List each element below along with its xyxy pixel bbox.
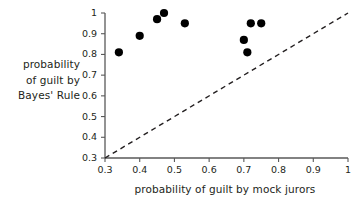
y-tick-label: 0.8: [75, 48, 97, 59]
plot-area: [0, 0, 360, 209]
x-tick-label: 0.9: [301, 164, 325, 175]
x-tick-label: 0.4: [128, 164, 152, 175]
x-tick-label: 0.7: [232, 164, 256, 175]
y-tick-label: 0.5: [75, 111, 97, 122]
data-point: [115, 48, 123, 56]
y-tick-label: 1: [75, 7, 97, 18]
data-point: [136, 32, 144, 40]
scatter-plot-figure: probability of guilt by Bayes' Rule prob…: [0, 0, 360, 209]
data-point: [257, 19, 265, 27]
x-tick-label: 0.3: [93, 164, 117, 175]
x-tick-label: 0.5: [162, 164, 186, 175]
x-tick-label: 1: [336, 164, 360, 175]
y-tick-label: 0.7: [75, 69, 97, 80]
y-tick-label: 0.6: [75, 90, 97, 101]
data-point: [247, 19, 255, 27]
data-point: [153, 15, 161, 23]
y-tick-label: 0.3: [75, 152, 97, 163]
y-tick-label: 0.4: [75, 131, 97, 142]
data-points: [115, 9, 266, 57]
data-point: [243, 48, 251, 56]
data-point: [160, 9, 168, 17]
x-tick-label: 0.8: [267, 164, 291, 175]
data-point: [181, 19, 189, 27]
data-point: [240, 36, 248, 44]
y-tick-label: 0.9: [75, 28, 97, 39]
x-tick-label: 0.6: [197, 164, 221, 175]
